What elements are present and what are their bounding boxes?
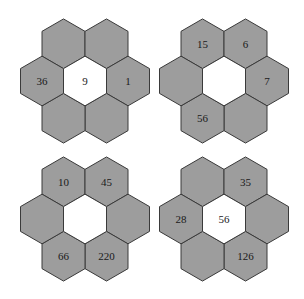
hexagon-number: 35: [240, 176, 252, 188]
hexagon-number: 66: [58, 250, 70, 262]
hexagon-number: 45: [101, 176, 113, 188]
cluster-bottom-right: 351262856: [160, 157, 289, 281]
hexagon-number: 15: [197, 38, 209, 50]
hexagon-number: 56: [197, 112, 209, 124]
hexagon-number: 9: [82, 75, 88, 87]
hexagon-number: 6: [243, 38, 249, 50]
cluster-bottom-left: 104522066: [21, 157, 150, 281]
hexagon-number: 56: [219, 213, 231, 225]
hexagon-number: 28: [176, 213, 188, 225]
cluster-top-right: 156756: [160, 19, 289, 143]
hexagon-number: 10: [58, 176, 70, 188]
hexagon-number: 220: [98, 250, 115, 262]
hexagon-number: 7: [264, 75, 270, 87]
hexagon-number: 126: [237, 250, 254, 262]
hexagon-puzzle-board: 1369156756104522066351262856: [0, 0, 304, 299]
hexagon-number: 36: [37, 75, 49, 87]
hexagon-number: 1: [125, 75, 131, 87]
cluster-top-left: 1369: [21, 19, 150, 143]
